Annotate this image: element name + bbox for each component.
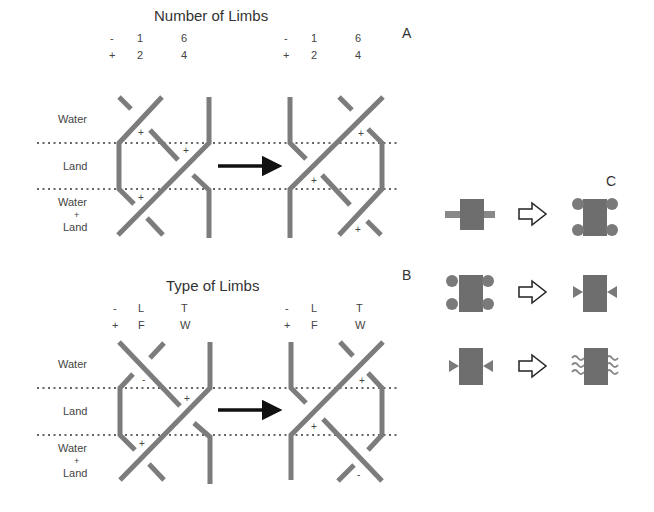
svg-text:-: -: [357, 469, 360, 480]
hollow-arrow-icon: [519, 281, 546, 303]
svg-text:+: +: [138, 192, 144, 203]
body-with-triangle-limbs: [573, 275, 617, 312]
panel-a-right-tree: [290, 97, 383, 238]
body-with-wavy-limbs: [572, 348, 618, 385]
panel-b-dotted-lines: [37, 388, 398, 435]
svg-text:+: +: [183, 145, 189, 156]
svg-text:+: +: [311, 175, 317, 186]
svg-text:+: +: [138, 127, 144, 138]
body-with-round-limbs: [572, 198, 618, 236]
panel-a-left-tree: [118, 97, 209, 238]
svg-text:+: +: [355, 224, 361, 235]
body-with-round-limbs: [446, 275, 494, 312]
body-with-bar-limbs: [445, 199, 495, 230]
panel-b-left-tree: [119, 342, 210, 484]
body-with-triangle-limbs: [449, 348, 493, 385]
panel-a-dotted-lines: [37, 143, 398, 189]
diagram-canvas: + + + + + + - + +: [0, 0, 654, 512]
svg-text:+: +: [359, 375, 365, 386]
hollow-arrow-icon: [519, 203, 546, 225]
panel-b-right-tree: [291, 342, 383, 481]
svg-text:+: +: [184, 393, 190, 404]
svg-text:+: +: [358, 128, 364, 139]
svg-text:-: -: [142, 374, 145, 385]
svg-text:+: +: [139, 438, 145, 449]
svg-text:+: +: [311, 421, 317, 432]
hollow-arrow-icon: [519, 355, 546, 377]
